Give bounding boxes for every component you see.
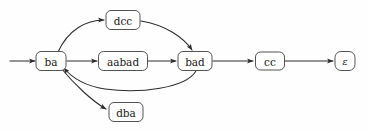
- graph-canvas: badccaabadbaddbaccε: [0, 0, 368, 130]
- state-node-label-aabad: aabad: [107, 56, 140, 68]
- edge-ba-to-dba: [61, 68, 106, 109]
- state-node-label-eps: ε: [342, 56, 347, 67]
- state-node-label-dcc: dcc: [114, 15, 133, 27]
- state-node-aabad[interactable]: aabad: [99, 52, 148, 71]
- state-node-label-cc: cc: [264, 56, 276, 68]
- state-node-dba[interactable]: dba: [109, 103, 143, 122]
- automaton-state-graph: badccaabadbaddbaccε: [0, 0, 368, 130]
- state-node-label-dba: dba: [116, 107, 136, 119]
- state-node-ba[interactable]: ba: [36, 52, 66, 71]
- state-node-bad[interactable]: bad: [178, 52, 212, 71]
- state-node-cc[interactable]: cc: [256, 52, 285, 70]
- nodes-layer: badccaabadbaddbaccε: [36, 11, 355, 122]
- state-node-label-bad: bad: [185, 56, 205, 68]
- state-node-dcc[interactable]: dcc: [106, 11, 140, 30]
- edge-bad-to-ba: [64, 68, 196, 91]
- edge-dcc-to-bad: [141, 21, 192, 50]
- edge-ba-to-dcc: [58, 20, 104, 52]
- state-node-label-ba: ba: [45, 56, 58, 68]
- state-node-eps[interactable]: ε: [335, 52, 355, 71]
